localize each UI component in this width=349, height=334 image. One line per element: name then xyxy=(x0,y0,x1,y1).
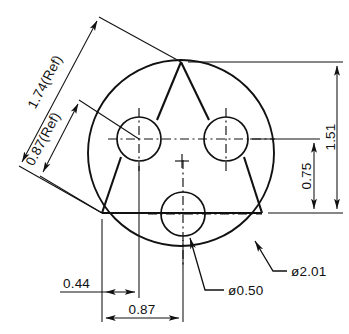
dimension-label-0-75: 0.75 xyxy=(299,162,314,189)
dimension-label-0-87-ref: 0.87(Ref) xyxy=(23,110,64,168)
outer-circle xyxy=(88,60,274,246)
chord-top-to-upper-right xyxy=(181,62,209,120)
triangle-webs xyxy=(102,62,262,213)
chord-upper-right-to-right-vertex xyxy=(244,157,262,213)
engineering-drawing-svg: 1.51 0.75 0.44 0.87 1.74(Ref) 0.87(Re xyxy=(0,0,349,334)
part-center-mark xyxy=(175,154,189,168)
extension-line-diag-long-upper xyxy=(99,17,181,62)
callout-leaders: ø0.50 ø2.01 xyxy=(190,238,327,298)
dimension-label-0-87: 0.87 xyxy=(128,302,155,317)
chord-upper-left-to-left-vertex xyxy=(102,157,121,213)
part-geometry xyxy=(88,60,275,266)
dimension-label-0-44: 0.44 xyxy=(63,276,90,291)
dimension-label-1-51: 1.51 xyxy=(323,123,338,150)
chord-top-to-upper-left xyxy=(157,62,181,120)
diagonal-reference-dimensions: 1.74(Ref) 0.87(Ref) xyxy=(19,17,181,213)
technical-drawing-canvas: 1.51 0.75 0.44 0.87 1.74(Ref) 0.87(Re xyxy=(0,0,349,334)
dimension-label-1-74-ref: 1.74(Ref) xyxy=(25,53,66,111)
leader-line-outer-diameter xyxy=(255,241,287,271)
callout-label-hole-diameter: ø0.50 xyxy=(228,283,264,298)
callout-label-outer-diameter: ø2.01 xyxy=(291,264,327,279)
